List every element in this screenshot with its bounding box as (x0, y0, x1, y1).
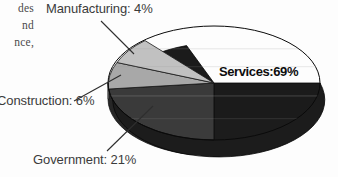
slice-government (109, 83, 214, 140)
slice-label-services: Services:69% (219, 64, 298, 79)
manufacturing-leader-line (101, 21, 134, 54)
pie-chart-figure: des nd nce, (0, 0, 338, 177)
slice-label-construction: Construction: 6% (0, 93, 94, 108)
pie-chart-graphic (0, 0, 338, 177)
pie-chart-svg (0, 0, 338, 177)
slice-label-manufacturing: Manufacturing: 4% (46, 1, 153, 16)
slice-label-government: Government: 21% (33, 152, 136, 167)
